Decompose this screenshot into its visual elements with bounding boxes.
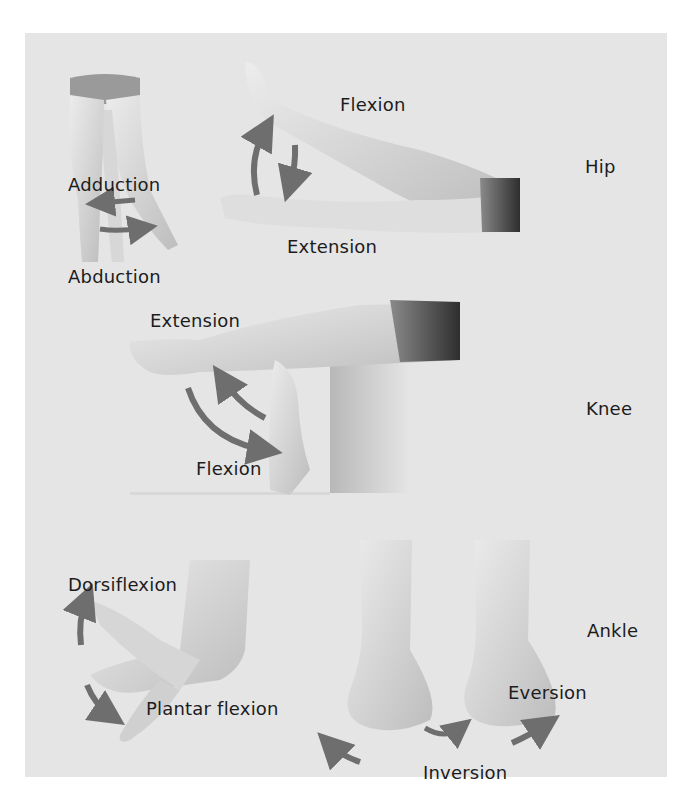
- knee-joint-label: Knee: [586, 398, 632, 419]
- ankle-inversion-label: Inversion: [423, 762, 507, 783]
- hip-abduction-figure: [70, 74, 178, 262]
- hip-extension-label: Extension: [287, 236, 377, 257]
- hip-abduction-label: Abduction: [68, 266, 161, 287]
- ankle-eversion-label: Eversion: [508, 682, 587, 703]
- hip-joint-label: Hip: [585, 156, 616, 177]
- knee-extension-label: Extension: [150, 310, 240, 331]
- hip-adduction-label: Adduction: [68, 174, 160, 195]
- ankle-dorsiflexion-label: Dorsiflexion: [68, 574, 177, 595]
- ankle-joint-label: Ankle: [587, 620, 638, 641]
- knee-flexion-label: Flexion: [196, 458, 262, 479]
- hip-flexion-label: Flexion: [340, 94, 406, 115]
- ankle-plantar-flexion-label: Plantar flexion: [146, 698, 279, 719]
- hip-flexion-figure: [220, 62, 520, 233]
- ankle-inversion-figure: [330, 540, 556, 762]
